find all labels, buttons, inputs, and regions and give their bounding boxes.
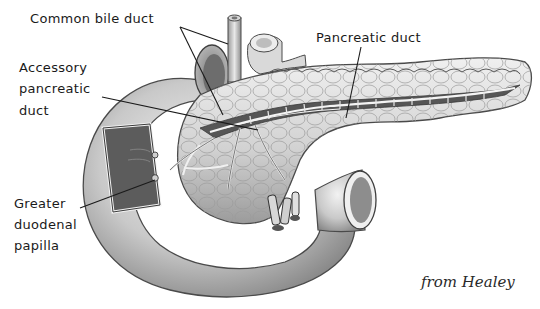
label-accessory-line1: Accessory (19, 58, 87, 78)
label-greater-papilla-line1: Greater (14, 194, 66, 214)
label-common-bile-duct: Common bile duct (30, 9, 154, 29)
label-pancreatic-duct: Pancreatic duct (316, 28, 421, 48)
label-accessory-line3: duct (19, 101, 49, 121)
label-accessory-line2: pancreatic (19, 79, 91, 99)
lesser-papilla (152, 152, 158, 158)
jejunum-cut-end (315, 170, 376, 232)
common-bile-duct-tube (228, 15, 241, 82)
pancreas-illustration (0, 0, 540, 309)
label-greater-papilla-line2: duodenal (14, 215, 77, 235)
anatomy-figure: Common bile duct Pancreatic duct Accesso… (0, 0, 540, 309)
figure-credit: from Healey (421, 273, 515, 291)
label-greater-papilla-line3: papilla (14, 236, 59, 256)
